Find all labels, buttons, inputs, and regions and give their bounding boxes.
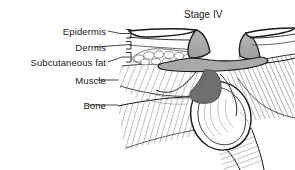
label-dermis: Dermis <box>0 43 106 53</box>
label-subcutaneous-fat: Subcutaneous fat <box>0 58 106 68</box>
label-bone: Bone <box>0 101 106 111</box>
label-epidermis: Epidermis <box>0 27 106 37</box>
label-muscle: Muscle <box>0 76 106 86</box>
figure-title: Stage IV <box>184 9 222 20</box>
stage-iv-pressure-ulcer-figure: Stage IV Epidermis Dermis Subcutaneous f… <box>0 0 295 170</box>
